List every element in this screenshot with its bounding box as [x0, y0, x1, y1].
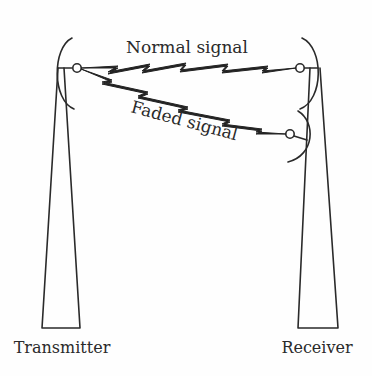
transmitter-tower — [42, 38, 81, 328]
normal-signal-bolt — [81, 63, 296, 74]
diagram-svg: Normal signal Faded signal Transmitter R… — [0, 0, 372, 376]
receiver-upper-antenna-node-icon — [296, 64, 304, 72]
transmitter-antenna-node-icon — [73, 64, 81, 72]
transmitter-label: Transmitter — [14, 338, 111, 357]
diagram-canvas: Normal signal Faded signal Transmitter R… — [0, 0, 372, 376]
receiver-tower — [286, 38, 338, 328]
faded-signal-label: Faded signal — [129, 97, 240, 145]
receiver-label: Receiver — [281, 338, 353, 357]
receiver-lower-antenna-node-icon — [286, 130, 294, 138]
normal-signal-label: Normal signal — [126, 37, 248, 57]
